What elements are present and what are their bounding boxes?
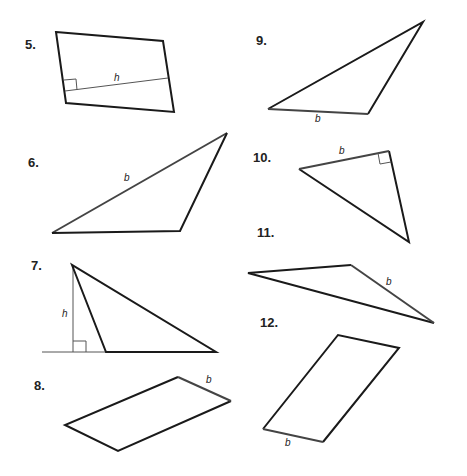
label-b-10: b xyxy=(339,145,345,156)
label-b-8: b xyxy=(206,374,212,385)
label-b-9: b xyxy=(315,113,321,124)
figure-7-triangle xyxy=(42,265,216,352)
figure-11-triangle xyxy=(248,265,434,323)
figure-9-triangle xyxy=(268,22,423,114)
label-b-6: b xyxy=(124,172,130,183)
label-h-7: h xyxy=(62,308,68,319)
figure-6-triangle xyxy=(52,133,227,233)
label-h-5: h xyxy=(114,72,120,83)
label-b-12: b xyxy=(285,437,291,448)
figure-10-triangle xyxy=(299,151,409,242)
figures-canvas xyxy=(0,0,467,476)
figure-12-parallelogram xyxy=(263,335,399,442)
label-b-11: b xyxy=(386,276,392,287)
figure-8-parallelogram xyxy=(65,377,231,451)
